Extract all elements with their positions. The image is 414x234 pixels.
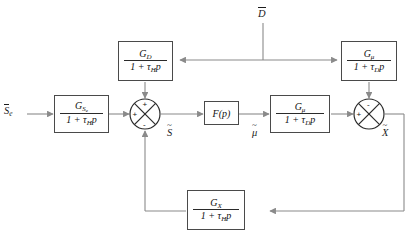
block-actuator-denominator: 1 + τDp: [278, 114, 322, 128]
block-gmu-top-numerator: Gμ: [357, 47, 382, 61]
left-sum-bottom-sign: -: [143, 121, 146, 129]
setpoint-input-label: Se: [4, 106, 13, 117]
block-feedback-denominator: 1 + τHp: [194, 210, 238, 224]
disturbance-input-label: D: [258, 9, 266, 20]
right-sum-top-sign: -: [367, 101, 370, 109]
block-disturbance-feedforward[interactable]: GD 1 + τHp: [118, 41, 173, 81]
block-actuator[interactable]: Gμ 1 + τDp: [270, 95, 330, 133]
block-gmu-top-denominator: 1 + τDp: [347, 61, 391, 75]
left-sum-top-sign: +: [143, 101, 148, 109]
block-gd-numerator: GD: [132, 47, 158, 61]
control-signal-label: μ: [252, 128, 257, 139]
block-disturbance-actuator[interactable]: Gμ 1 + τDp: [341, 41, 397, 81]
block-controller[interactable]: F(p): [204, 101, 239, 125]
block-actuator-numerator: Gμ: [288, 100, 313, 114]
block-controller-label: F(p): [213, 108, 231, 119]
block-feedback-numerator: GX: [203, 196, 229, 210]
error-signal-label: S: [167, 128, 172, 139]
right-sum-left-sign: +: [357, 111, 362, 119]
block-input-gain-denominator: 1 + τHp: [59, 114, 103, 128]
block-input-gain[interactable]: GSe 1 + τHp: [54, 95, 109, 133]
block-input-gain-numerator: GSe: [68, 99, 95, 113]
right-summing-junction[interactable]: - +: [353, 98, 385, 130]
block-gd-denominator: 1 + τHp: [123, 61, 167, 75]
block-diagram: Se D X S μ GSe 1 + τHp GD 1 + τHp: [0, 0, 414, 234]
left-summing-junction[interactable]: + + -: [129, 98, 161, 130]
block-feedback[interactable]: GX 1 + τHp: [187, 190, 245, 230]
left-sum-left-sign: +: [133, 111, 138, 119]
